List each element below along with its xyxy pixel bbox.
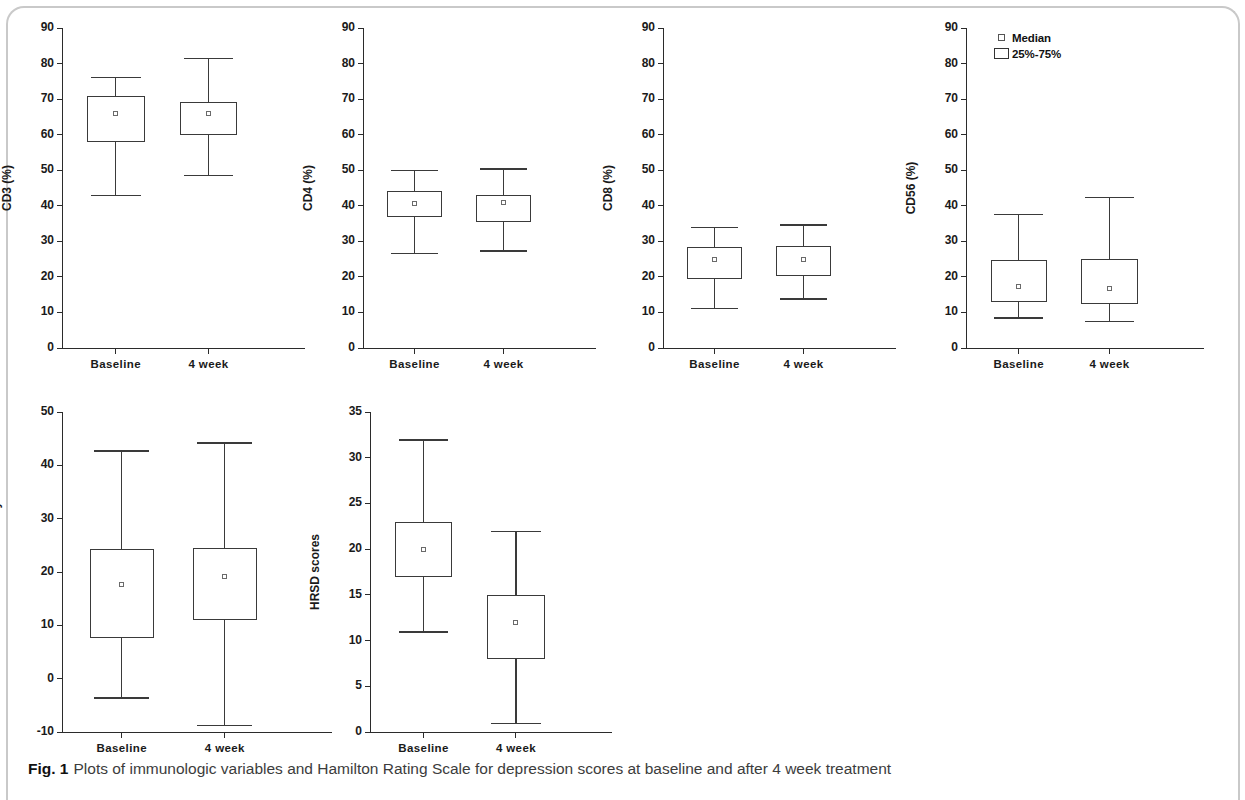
x-axis-tick bbox=[115, 349, 116, 354]
x-axis-line bbox=[663, 348, 896, 349]
lower-whisker-cap bbox=[399, 631, 448, 632]
y-axis-tick-label: 90 bbox=[8, 21, 54, 33]
y-axis-line bbox=[62, 412, 63, 732]
y-axis-tick-label: 20 bbox=[912, 270, 958, 282]
iqr-box bbox=[87, 96, 145, 142]
y-axis-tick-label: 90 bbox=[609, 21, 655, 33]
y-axis-tick-label: 5 bbox=[316, 679, 362, 691]
y-axis-tick-label: 10 bbox=[316, 634, 362, 646]
y-axis-tick bbox=[57, 572, 62, 573]
lower-whisker bbox=[714, 279, 715, 309]
y-axis-tick bbox=[961, 99, 966, 100]
upper-whisker-cap bbox=[391, 170, 438, 171]
x-axis-tick-label: 4 week bbox=[456, 742, 576, 754]
upper-whisker-cap bbox=[480, 168, 527, 169]
upper-whisker-cap bbox=[91, 77, 140, 78]
iqr-box bbox=[687, 247, 742, 278]
upper-whisker bbox=[803, 224, 804, 245]
upper-whisker bbox=[714, 227, 715, 247]
y-axis-tick-label: 80 bbox=[309, 57, 355, 69]
article-frame-left-rail bbox=[6, 744, 8, 800]
iqr-box bbox=[1081, 259, 1137, 303]
lower-whisker-cap bbox=[480, 250, 527, 251]
lower-whisker-cap bbox=[391, 253, 438, 254]
y-axis-tick-label: 60 bbox=[609, 128, 655, 140]
y-axis-tick bbox=[57, 134, 62, 135]
y-axis-tick bbox=[658, 28, 663, 29]
x-axis-tick-label: 4 week bbox=[149, 358, 269, 370]
median-marker bbox=[222, 574, 227, 579]
y-axis-tick bbox=[358, 63, 363, 64]
y-axis-tick bbox=[57, 63, 62, 64]
x-axis-line bbox=[370, 732, 612, 733]
plot-panel: 0102030405060708090CD3 (%)Baseline4 week bbox=[62, 28, 305, 348]
y-axis-tick-label: 50 bbox=[912, 163, 958, 175]
y-axis-tick-label: 40 bbox=[609, 199, 655, 211]
y-axis-tick bbox=[365, 549, 370, 550]
y-axis-tick bbox=[358, 312, 363, 313]
y-axis-tick-label: 10 bbox=[609, 305, 655, 317]
y-axis-tick bbox=[57, 465, 62, 466]
upper-whisker bbox=[414, 170, 415, 191]
iqr-box bbox=[180, 102, 238, 135]
y-axis-tick-label: 50 bbox=[8, 405, 54, 417]
y-axis-tick-label: 10 bbox=[8, 305, 54, 317]
y-axis-tick bbox=[358, 205, 363, 206]
lower-whisker bbox=[121, 638, 122, 698]
legend-label-iqr: 25%-75% bbox=[1012, 48, 1061, 60]
y-axis-tick-label: 0 bbox=[912, 341, 958, 353]
y-axis-tick-label: 40 bbox=[8, 199, 54, 211]
x-axis-line bbox=[62, 732, 332, 733]
y-axis-tick-label: 20 bbox=[609, 270, 655, 282]
y-axis-tick-label: 0 bbox=[8, 672, 54, 684]
lower-whisker bbox=[803, 276, 804, 298]
x-axis-tick bbox=[1018, 349, 1019, 354]
lower-whisker-cap bbox=[691, 308, 738, 309]
y-axis-tick-label: 35 bbox=[316, 405, 362, 417]
y-axis-tick-label: 90 bbox=[309, 21, 355, 33]
y-axis-tick bbox=[57, 241, 62, 242]
upper-whisker-cap bbox=[491, 531, 540, 532]
y-axis-tick-label: 30 bbox=[609, 234, 655, 246]
x-axis-tick-label: 4 week bbox=[444, 358, 564, 370]
figure-page: 0102030405060708090CD3 (%)Baseline4 week… bbox=[0, 0, 1245, 800]
x-axis-tick bbox=[714, 349, 715, 354]
x-axis-line bbox=[966, 348, 1204, 349]
median-marker bbox=[113, 111, 118, 116]
y-axis-tick-label: 0 bbox=[316, 725, 362, 737]
plot-panel: 05101520253035HRSD scoresBaseline4 week bbox=[370, 412, 612, 732]
y-axis-tick bbox=[365, 412, 370, 413]
median-marker bbox=[412, 201, 417, 206]
y-axis-tick bbox=[57, 312, 62, 313]
y-axis-tick bbox=[658, 312, 663, 313]
x-axis-tick-label: Baseline bbox=[62, 742, 182, 754]
upper-whisker-cap bbox=[1085, 197, 1133, 198]
y-axis-tick bbox=[658, 348, 663, 349]
lower-whisker bbox=[115, 142, 116, 195]
y-axis-tick-label: 70 bbox=[8, 92, 54, 104]
y-axis-tick-label: 80 bbox=[8, 57, 54, 69]
y-axis-tick-label: 0 bbox=[309, 341, 355, 353]
y-axis-tick bbox=[57, 518, 62, 519]
y-axis-title: CD8 (%) bbox=[601, 165, 615, 211]
y-axis-tick bbox=[358, 134, 363, 135]
x-axis-tick bbox=[414, 349, 415, 354]
y-axis-tick bbox=[658, 170, 663, 171]
y-axis-tick bbox=[365, 732, 370, 733]
y-axis-tick bbox=[658, 241, 663, 242]
iqr-box bbox=[90, 549, 154, 638]
x-axis-line bbox=[363, 348, 596, 349]
y-axis-tick-label: 20 bbox=[8, 270, 54, 282]
x-axis-tick bbox=[515, 733, 516, 738]
lower-whisker bbox=[208, 135, 209, 175]
x-axis-tick bbox=[208, 349, 209, 354]
y-axis-title: CD4 (%) bbox=[301, 165, 315, 211]
y-axis-tick bbox=[57, 28, 62, 29]
y-axis-tick bbox=[358, 276, 363, 277]
y-axis-tick bbox=[658, 205, 663, 206]
x-axis-line bbox=[62, 348, 305, 349]
y-axis-title: CD3 (%) bbox=[0, 165, 14, 211]
upper-whisker bbox=[1018, 214, 1019, 260]
lower-whisker-cap bbox=[184, 175, 233, 176]
upper-whisker-cap bbox=[691, 227, 738, 228]
